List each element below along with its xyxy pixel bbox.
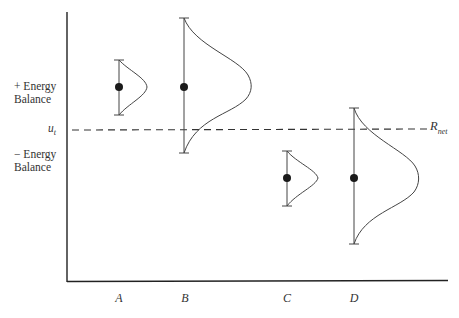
category-label-d: D [350,291,359,306]
mean-dot-b [180,83,188,91]
threshold-left-label: ut [48,122,56,139]
mean-dot-d [350,174,358,182]
rnet-sub: net [438,127,448,136]
distribution-c [282,151,318,206]
distribution-d [349,108,419,244]
negative-energy-line1: − Energy [14,148,56,161]
ut-sub: t [54,128,56,137]
category-label-a: A [115,291,122,306]
diagram-canvas [0,0,459,318]
category-label-b: B [181,291,188,306]
threshold-line [72,129,428,130]
positive-energy-line2: Balance [14,93,56,106]
positive-energy-line1: + Energy [14,80,56,93]
rnet-main: R [430,119,438,133]
negative-energy-label: − Energy Balance [14,148,56,174]
mean-dot-c [283,174,291,182]
negative-energy-line2: Balance [14,161,56,174]
x-axis [67,281,448,282]
distribution-a [114,60,147,115]
mean-dot-a [115,83,123,91]
category-label-c: C [283,291,291,306]
distribution-b [179,18,251,153]
positive-energy-label: + Energy Balance [14,80,56,106]
threshold-right-label: Rnet [430,120,447,138]
